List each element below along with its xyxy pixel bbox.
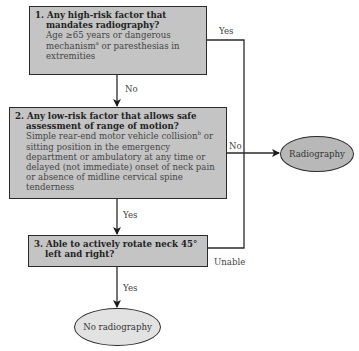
radiography-label: Radiography — [289, 149, 345, 159]
label-step1-yes: Yes — [219, 26, 233, 36]
step3-question: 3. Able to actively rotate neck 45° left… — [34, 239, 203, 259]
no-radiography-label: No radiography — [83, 322, 152, 332]
step1-question: 1. Any high-risk factor that mandates ra… — [35, 10, 202, 30]
step2-question: 2. Any low-risk factor that allows safe … — [15, 111, 222, 131]
radiography-outcome: Radiography — [280, 136, 354, 172]
step3-box: 3. Able to actively rotate neck 45° left… — [28, 235, 208, 267]
label-step1-no: No — [125, 84, 138, 94]
step2-box: 2. Any low-risk factor that allows safe … — [9, 107, 227, 199]
label-step2-yes: Yes — [123, 210, 137, 220]
step1-detail: Age ≥65 years or dangerous mechanisma or… — [35, 30, 202, 61]
step2-detail: Simple rear-end motor vehicle collisionb… — [15, 131, 222, 192]
label-step2-no: No — [229, 141, 242, 151]
label-step3-unable: Unable — [214, 257, 245, 267]
label-step3-yes: Yes — [123, 283, 137, 293]
no-radiography-outcome: No radiography — [74, 308, 161, 346]
step2-detail-text: Simple rear-end motor vehicle collision — [26, 131, 198, 141]
step1-box: 1. Any high-risk factor that mandates ra… — [29, 6, 207, 75]
